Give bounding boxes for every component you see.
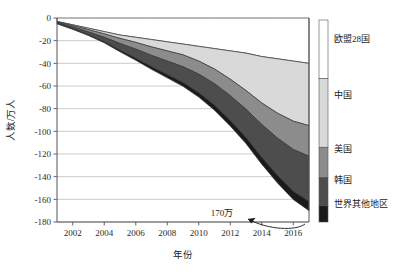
x-tick-label: 2008 — [158, 228, 177, 238]
legend-label-2: 美国 — [334, 143, 352, 154]
x-axis-title: 年份 — [173, 249, 193, 260]
y-tick-label: -160 — [35, 195, 52, 205]
y-tick-label: -80 — [39, 104, 51, 114]
legend-label-4: 世界其他地区 — [334, 198, 388, 209]
legend-swatch-4[interactable] — [319, 206, 328, 222]
x-tick-label: 2016 — [284, 228, 303, 238]
legend-swatch-1[interactable] — [319, 79, 328, 148]
x-tick-label: 2010 — [190, 228, 209, 238]
annotation-label: 170万 — [211, 208, 234, 218]
legend-color-bar[interactable] — [319, 20, 328, 222]
stacked-area-chart: 0-20-40-60-80-100-120-140-160-180 200220… — [0, 0, 402, 279]
y-tick-label: -140 — [35, 172, 52, 182]
y-tick-label: -120 — [35, 149, 52, 159]
legend-swatch-2[interactable] — [319, 147, 328, 177]
legend-label-3: 韩国 — [334, 174, 352, 185]
x-tick-label: 2006 — [127, 228, 146, 238]
x-tick-label: 2012 — [221, 228, 239, 238]
legend-label-1: 中国 — [334, 89, 352, 100]
legend-swatch-3[interactable] — [319, 178, 328, 206]
y-tick-label: 0 — [47, 13, 52, 23]
x-tick-label: 2002 — [64, 228, 82, 238]
y-tick-label: -20 — [39, 36, 51, 46]
x-tick-label: 2014 — [253, 228, 272, 238]
legend-label-0: 欧盟28国 — [334, 33, 370, 44]
legend-labels: 欧盟28国中国美国韩国世界其他地区 — [334, 33, 388, 209]
x-axis-ticks: 20022004200620082010201220142016 — [64, 222, 303, 238]
y-tick-label: -40 — [39, 59, 51, 69]
y-axis-title: 人数/万人 — [5, 99, 16, 142]
chart-canvas: 0-20-40-60-80-100-120-140-160-180 200220… — [0, 0, 402, 279]
y-tick-label: -180 — [35, 217, 52, 227]
x-tick-label: 2004 — [95, 228, 114, 238]
y-axis-ticks: 0-20-40-60-80-100-120-140-160-180 — [35, 13, 58, 227]
legend-swatch-0[interactable] — [319, 20, 328, 79]
y-tick-label: -60 — [39, 81, 51, 91]
y-tick-label: -100 — [35, 127, 52, 137]
